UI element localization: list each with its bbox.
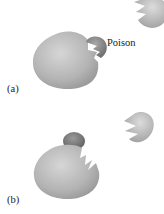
- free-molecule-b-icon: [124, 112, 154, 142]
- panel-b: [34, 112, 154, 199]
- poison-label: Poison: [107, 38, 136, 49]
- enzyme-b-icon: [34, 145, 99, 199]
- panel-a-label: (a): [7, 84, 19, 95]
- diagram-canvas: [0, 0, 164, 214]
- panel-a: [33, 0, 164, 89]
- free-molecule-a-icon: [134, 0, 164, 28]
- panel-b-label: (b): [7, 195, 19, 206]
